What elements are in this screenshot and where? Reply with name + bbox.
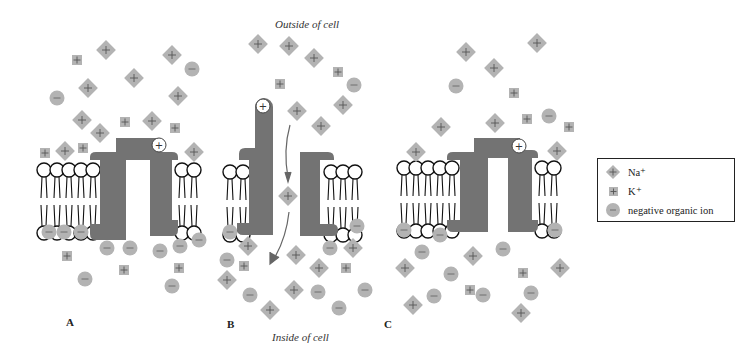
sodium-ion	[142, 111, 162, 131]
sodium-ion	[168, 86, 188, 106]
legend-item-sodium: Na⁺	[604, 163, 646, 181]
sodium-potassium-pump-diagram: + +	[0, 0, 747, 360]
sodium-ion	[124, 68, 144, 88]
sodium-ion	[72, 110, 92, 130]
negative-organic-ion	[165, 279, 180, 294]
negative-organic-ion	[415, 245, 430, 260]
negative-organic-ion	[74, 225, 89, 240]
sodium-ion	[511, 303, 531, 323]
negative-organic-ion	[548, 223, 563, 238]
potassium-ion	[40, 148, 50, 158]
legend: Na⁺ K⁺ negative organic ion	[597, 158, 735, 222]
negative-organic-ion	[397, 223, 412, 238]
potassium-ion	[509, 88, 519, 98]
sodium-ion	[217, 270, 237, 290]
negative-organic-ion	[153, 244, 168, 259]
negative-organic-ion	[185, 62, 200, 77]
negative-organic-ion	[42, 225, 57, 240]
negative-organic-ion	[100, 241, 115, 256]
sodium-ion	[456, 42, 476, 62]
legend-item-potassium: K⁺	[604, 182, 642, 200]
sodium-ion	[309, 258, 329, 278]
panel-label-c: C	[384, 318, 392, 330]
negative-organic-ion	[347, 78, 362, 93]
potassium-ion	[239, 261, 249, 271]
legend-label-negative-ion: negative organic ion	[628, 205, 714, 216]
potassium-ion	[341, 263, 351, 273]
legend-label-sodium: Na⁺	[628, 166, 646, 178]
sodium-ion	[304, 48, 324, 68]
sodium-ion	[184, 142, 204, 162]
legend-item-negative-ion: negative organic ion	[604, 201, 714, 219]
negative-organic-ion	[311, 285, 326, 300]
potassium-ion	[518, 268, 528, 278]
membrane-right-a	[175, 163, 201, 240]
sodium-ion	[278, 186, 298, 206]
negative-organic-ion	[78, 272, 93, 287]
potassium-ion	[564, 122, 574, 132]
inside-of-cell-caption: Inside of cell	[272, 331, 329, 343]
sodium-ion-icon	[604, 163, 622, 181]
sodium-ion	[90, 123, 110, 143]
sodium-ion	[162, 45, 182, 65]
potassium-ion	[275, 79, 285, 89]
negative-organic-ion	[524, 286, 539, 301]
negative-organic-ion	[542, 109, 557, 124]
negative-organic-ion	[223, 225, 238, 240]
sodium-ion	[463, 246, 483, 266]
sodium-ion	[287, 101, 307, 121]
negative-organic-ion	[358, 283, 373, 298]
sodium-ion	[248, 34, 268, 54]
potassium-ion	[119, 265, 129, 275]
panel-label-a: A	[66, 316, 74, 328]
potassium-ion	[120, 117, 130, 127]
sodium-ion	[403, 295, 423, 315]
outside-of-cell-caption: Outside of cell	[275, 18, 339, 30]
sodium-ion	[406, 142, 426, 162]
potassium-ion	[174, 263, 184, 273]
potassium-ion	[72, 55, 82, 65]
sodium-ion	[286, 245, 306, 265]
negative-organic-ion	[444, 267, 459, 282]
sodium-ion	[484, 58, 504, 78]
pump-protein-c: +	[447, 138, 538, 232]
potassium-ion-icon	[604, 182, 622, 200]
svg-text:+: +	[259, 101, 267, 112]
sodium-ion	[78, 78, 98, 98]
sodium-ion	[547, 141, 567, 161]
potassium-ion	[522, 114, 532, 124]
negative-organic-ion	[323, 241, 338, 256]
potassium-ion	[465, 285, 475, 295]
negative-organic-ion	[173, 239, 188, 254]
negative-organic-ion	[332, 301, 347, 316]
negative-organic-ion	[449, 79, 464, 94]
negative-organic-ion	[50, 91, 65, 106]
negative-organic-ion	[243, 288, 258, 303]
potassium-ion	[170, 123, 180, 133]
legend-label-potassium: K⁺	[628, 185, 642, 197]
negative-organic-ion	[350, 219, 365, 234]
sodium-ion	[96, 40, 116, 60]
sodium-ion	[279, 36, 299, 56]
sodium-ion	[311, 116, 331, 136]
sodium-ion	[333, 95, 353, 115]
sodium-ion	[260, 300, 280, 320]
negative-ion-icon	[604, 201, 622, 219]
potassium-ion	[62, 251, 72, 261]
sodium-ion	[395, 258, 415, 278]
svg-text:+: +	[155, 140, 163, 151]
negative-organic-ion	[123, 241, 138, 256]
panel-label-b: B	[227, 318, 234, 330]
potassium-ion	[78, 143, 88, 153]
negative-organic-ion	[57, 225, 72, 240]
negative-organic-ion	[476, 288, 491, 303]
sodium-ion	[527, 33, 547, 53]
sodium-ion	[431, 117, 451, 137]
pump-protein-a: +	[90, 138, 178, 240]
negative-organic-ion	[496, 242, 511, 257]
sodium-ion	[284, 280, 304, 300]
sodium-ion	[485, 113, 505, 133]
negative-organic-ion	[433, 228, 448, 243]
sodium-ion	[55, 141, 75, 161]
negative-organic-ion	[220, 253, 235, 268]
